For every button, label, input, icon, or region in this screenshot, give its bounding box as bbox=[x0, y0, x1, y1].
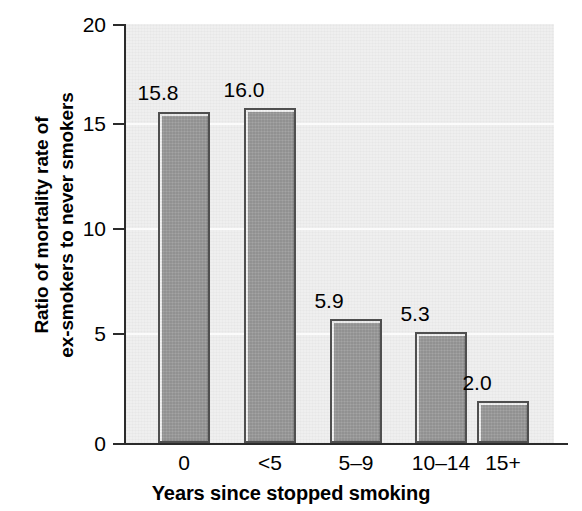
bar-texture bbox=[160, 114, 208, 441]
bar-lt5 bbox=[244, 108, 296, 443]
y-tick-label-10: 10 bbox=[62, 218, 106, 239]
y-tick-10 bbox=[113, 228, 124, 230]
y-tick-label-10-wrap: 10 bbox=[62, 218, 106, 239]
y-tick-label-15-wrap: 15 bbox=[62, 113, 106, 134]
y-tick-15 bbox=[113, 123, 124, 125]
value-label-0: 15.8 bbox=[118, 82, 198, 103]
bar-texture bbox=[332, 321, 380, 441]
value-label-5-9: 5.9 bbox=[295, 290, 363, 311]
x-tick-label-0: 0 bbox=[144, 452, 224, 473]
y-tick-5 bbox=[113, 333, 124, 335]
bar-texture bbox=[246, 110, 294, 441]
x-axis-line bbox=[113, 443, 568, 445]
y-tick-label-0: 0 bbox=[62, 433, 106, 454]
y-tick-label-20-wrap: 20 bbox=[62, 14, 106, 35]
bar-0 bbox=[158, 112, 210, 443]
bar-chart: Ratio of mortality rate of ex-smokers to… bbox=[0, 0, 582, 511]
y-tick-label-0-wrap: 0 bbox=[62, 433, 106, 454]
y-tick-label-20: 20 bbox=[62, 14, 106, 35]
x-tick-label-5-9: 5–9 bbox=[316, 452, 396, 473]
bar-texture bbox=[479, 403, 527, 441]
y-axis-title-line-1: Ratio of mortality rate of bbox=[29, 92, 54, 358]
y-tick-0 bbox=[113, 443, 124, 445]
value-label-15-plus: 2.0 bbox=[443, 372, 511, 393]
x-tick-label-15-plus: 15+ bbox=[463, 452, 543, 473]
y-tick-label-5-wrap: 5 bbox=[62, 323, 106, 344]
y-tick-label-15: 15 bbox=[62, 113, 106, 134]
x-tick-label-lt5: <5 bbox=[230, 452, 310, 473]
y-tick-20 bbox=[113, 24, 124, 26]
bar-5-9 bbox=[330, 319, 382, 443]
x-axis-title: Years since stopped smoking bbox=[0, 482, 582, 505]
bar-15-plus bbox=[477, 401, 529, 443]
value-label-10-14: 5.3 bbox=[381, 303, 449, 324]
y-tick-label-5: 5 bbox=[62, 323, 106, 344]
value-label-lt5: 16.0 bbox=[204, 79, 284, 100]
